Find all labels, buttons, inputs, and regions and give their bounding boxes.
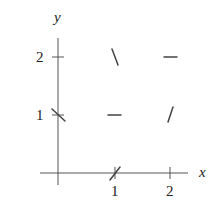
slope-field-chart: y x 1 2 1 2: [0, 0, 210, 205]
x-tick-label-1: 1: [111, 183, 119, 199]
slope-segments: [52, 49, 177, 180]
segment-1-2: [112, 49, 118, 65]
x-tick-label-2: 2: [166, 183, 174, 199]
y-axis-label: y: [52, 9, 61, 25]
y-tick-label-2: 2: [36, 49, 44, 65]
segment-2-1: [168, 107, 173, 122]
y-tick-label-1: 1: [36, 107, 44, 123]
x-axis-label: x: [198, 164, 206, 180]
axes: [40, 38, 188, 185]
